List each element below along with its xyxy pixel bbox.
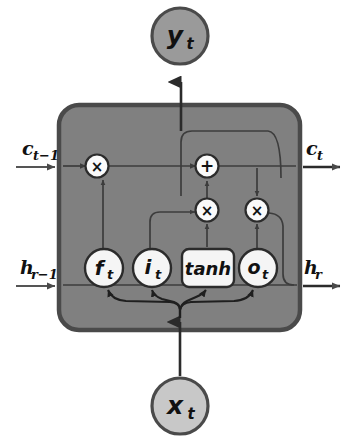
operator-cell-add-symbol: + (200, 156, 214, 176)
node-y-output[interactable]: y t (152, 8, 208, 64)
operator-cell-add[interactable]: + (196, 155, 219, 178)
label-h-out: h r (304, 256, 323, 282)
gate-output[interactable]: o t (239, 249, 277, 287)
label-c-prev-subscript: t−1 (33, 148, 59, 163)
node-x-input[interactable]: x t (152, 378, 208, 434)
gate-candidate-tanh[interactable]: tanh (182, 249, 234, 287)
label-c-prev: c t−1 (22, 137, 59, 163)
label-c-out-subscript: t (317, 148, 323, 163)
gate-forget[interactable]: f t (85, 249, 123, 287)
operator-forget-multiply[interactable]: × (86, 155, 109, 178)
label-h-prev-subscript: r−1 (31, 267, 58, 282)
node-y-output-label: y (167, 21, 185, 50)
operator-input-multiply-symbol: × (201, 202, 214, 220)
lstm-diagram: × + × × f t i t tanh (0, 0, 347, 441)
gate-input[interactable]: i t (133, 249, 171, 287)
operator-input-multiply[interactable]: × (196, 199, 219, 222)
gate-forget-subscript: t (107, 267, 114, 282)
label-h-prev: h r−1 (20, 256, 58, 282)
gate-input-label: i (145, 255, 153, 279)
operator-output-multiply-symbol: × (251, 202, 264, 220)
node-y-output-subscript: t (186, 35, 194, 53)
node-x-input-subscript: t (187, 405, 195, 423)
gate-output-label: o (247, 256, 260, 278)
label-h-out-subscript: r (315, 267, 323, 282)
operator-output-multiply[interactable]: × (246, 199, 269, 222)
gate-input-subscript: t (155, 267, 162, 282)
node-x-input-label: x (165, 391, 184, 420)
label-c-out: c t (306, 137, 323, 163)
gate-candidate-tanh-label: tanh (185, 258, 231, 279)
operator-forget-multiply-symbol: × (91, 158, 104, 176)
lstm-diagram-canvas: × + × × f t i t tanh (0, 0, 347, 441)
gate-output-subscript: t (262, 267, 269, 282)
